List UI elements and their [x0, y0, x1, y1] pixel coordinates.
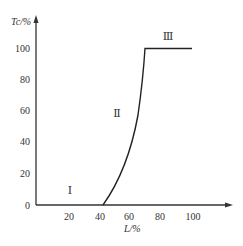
- data-curve: [103, 49, 192, 206]
- y-tick-60: 60: [20, 105, 30, 116]
- y-axis-label: Tc/%: [11, 16, 31, 27]
- y-axis-arrow-icon: [34, 15, 39, 23]
- x-tick-80: 80: [155, 211, 165, 222]
- y-tick-40: 40: [20, 136, 30, 147]
- region-label-1: Ⅰ: [68, 184, 72, 196]
- region-label-3: Ⅲ: [163, 30, 174, 42]
- y-tick-80: 80: [20, 74, 30, 85]
- y-tick-0: 0: [25, 200, 30, 211]
- x-axis-label: L/%: [123, 223, 141, 234]
- y-tick-20: 20: [20, 168, 30, 179]
- x-tick-60: 60: [124, 211, 134, 222]
- x-tick-100: 100: [186, 211, 201, 222]
- chart-container: Tc/% L/% 0 20 40 60 80 100 20 40 60 80 1…: [0, 0, 243, 246]
- x-axis-arrow-icon: [225, 203, 233, 208]
- chart-svg: Tc/% L/% 0 20 40 60 80 100 20 40 60 80 1…: [0, 0, 243, 246]
- region-label-2: Ⅱ: [113, 107, 120, 119]
- y-tick-100: 100: [15, 43, 30, 54]
- x-tick-20: 20: [64, 211, 74, 222]
- x-tick-40: 40: [95, 211, 105, 222]
